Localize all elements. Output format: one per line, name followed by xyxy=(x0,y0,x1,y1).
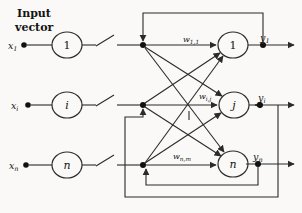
input-label-x1: x1 xyxy=(8,40,18,53)
neuron-label-1: 1 xyxy=(230,39,237,52)
weight-label-wnm: wn,m xyxy=(173,152,191,162)
input-label-xn: xn xyxy=(9,160,19,173)
input-label-xi: xi xyxy=(11,100,18,113)
title-line-2: vector xyxy=(14,21,54,34)
weight-label-wij: wi,j xyxy=(199,92,212,103)
weight-line-1-to-j xyxy=(145,47,222,96)
switch-blade-icon-n xyxy=(96,155,114,166)
input-terminal-dot-n xyxy=(23,162,29,168)
neuron-label-n: n xyxy=(229,158,236,171)
input-node-label-n: n xyxy=(63,159,70,172)
switch-blade-icon-1 xyxy=(96,35,114,46)
input-terminal-dot-1 xyxy=(21,42,27,48)
network-svg: Input vector x1 1 xi i xn n w1,1 wi,j wn… xyxy=(0,0,302,213)
weight-label-w11: w1,1 xyxy=(183,35,199,45)
weight-line-i-to-n xyxy=(145,107,221,156)
title-line-1: Input xyxy=(17,7,52,20)
switch-blade-icon-i xyxy=(96,95,114,106)
input-node-label-i: i xyxy=(65,99,69,112)
input-terminal-dot-i xyxy=(25,102,31,108)
input-node-label-1: 1 xyxy=(64,39,71,52)
hopfield-network-diagram: Input vector x1 1 xi i xn n w1,1 wi,j wn… xyxy=(0,0,302,213)
